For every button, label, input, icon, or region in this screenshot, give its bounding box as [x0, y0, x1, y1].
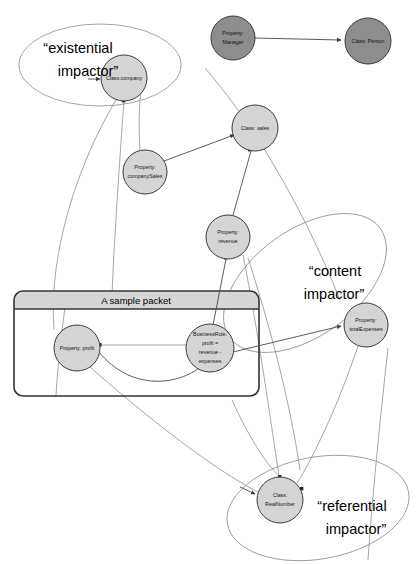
content-impactor-label-line1: “content	[309, 263, 361, 279]
node-companysales[interactable]: Property: companySales	[123, 150, 167, 194]
edge-companysales-sales	[164, 135, 234, 161]
node-sales[interactable]: Class: sales	[232, 105, 278, 151]
edge-businessrule-totalexpenses	[233, 326, 341, 352]
existential-impactor-label-line2: impactor”	[58, 63, 119, 79]
node-manager-label-line2: Manager	[223, 39, 244, 45]
packet-title: A sample packet	[101, 295, 171, 306]
node-realnumber-circle[interactable]	[257, 477, 303, 523]
node-person-label: Class: Person	[352, 38, 385, 44]
node-totalexpenses-label-line2: totalExpenses	[349, 326, 383, 332]
node-sales-label: Class: sales	[241, 125, 270, 131]
edge-businessrule-profit-curve	[99, 352, 199, 381]
edge-lower-right-sweep	[248, 258, 300, 470]
node-businessrule-label-line4: expenses	[199, 358, 222, 364]
referential-impactor-label-line2: impactor”	[326, 521, 387, 537]
node-manager-circle[interactable]	[211, 16, 255, 60]
node-totalexpenses-circle[interactable]	[344, 303, 388, 347]
edge-profit-realnumber	[90, 367, 258, 492]
edge-sales-revenue	[233, 151, 251, 215]
node-manager[interactable]: Property: Manager	[211, 16, 255, 60]
edge-packet-bottom-sweep	[232, 400, 282, 478]
edge-manager-person	[255, 38, 341, 40]
node-revenue-label-line1: Property:	[217, 229, 238, 235]
node-businessrule[interactable]: BusinessRule: profit = revenue - expense…	[186, 324, 234, 372]
diagram-canvas: A sample packet	[0, 0, 418, 564]
node-manager-label-line1: Property:	[222, 30, 243, 36]
node-totalexpenses[interactable]: Property: totalExpenses	[344, 303, 388, 347]
node-profit[interactable]: Property: profit	[54, 325, 100, 371]
node-businessrule-label-line3: revenue -	[199, 349, 222, 355]
edge-revenue-realnumber	[243, 255, 279, 476]
node-revenue-circle[interactable]	[206, 215, 250, 259]
node-companysales-circle[interactable]	[123, 150, 167, 194]
node-profit-label: Property: profit	[60, 345, 95, 351]
node-revenue[interactable]: Property: revenue	[206, 215, 250, 259]
existential-impactor-label-line1: “existential	[43, 40, 112, 56]
node-businessrule-label-line1: BusinessRule:	[193, 331, 227, 337]
node-revenue-label-line2: revenue	[218, 238, 237, 244]
referential-impactor-label-line1: “referential	[317, 498, 386, 514]
edge-totalexpenses-realnumber	[297, 346, 358, 483]
node-realnumber-label-line1: Class:	[273, 492, 288, 498]
content-impactor-label-line2: impactor”	[304, 286, 365, 302]
edge-company-down	[112, 101, 124, 300]
node-companysales-label-line1: Property:	[134, 164, 155, 170]
node-person[interactable]: Class: Person	[345, 18, 391, 64]
impactor-diagram: A sample packet	[0, 0, 418, 564]
node-realnumber[interactable]: Class: RealNumber	[257, 477, 303, 523]
node-businessrule-label-line2: profit =	[202, 340, 218, 346]
edge-into-realnumber-left	[240, 487, 255, 494]
node-realnumber-label-line2: RealNumber	[265, 501, 295, 507]
impactor-labels: “existential impactor” “content impactor…	[43, 40, 386, 537]
node-totalexpenses-label-line1: Property:	[355, 317, 376, 323]
long-connector-curves	[53, 68, 388, 560]
node-companysales-label-line2: companySales	[128, 173, 163, 179]
